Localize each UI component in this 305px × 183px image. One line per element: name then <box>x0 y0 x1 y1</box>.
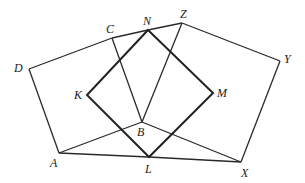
segment-dc <box>29 38 112 69</box>
segment-bx <box>142 122 241 162</box>
label-b: B <box>137 125 145 139</box>
label-z: Z <box>180 7 187 21</box>
segment-xl <box>149 157 241 162</box>
label-l: L <box>144 162 152 176</box>
label-a: A <box>49 156 58 170</box>
figure-segments <box>29 23 280 162</box>
segment-la <box>59 153 149 157</box>
label-n: N <box>142 14 152 28</box>
segment-zb <box>142 23 182 122</box>
segment-cb <box>112 38 142 122</box>
segment-zy <box>182 23 280 61</box>
label-c: C <box>106 22 115 36</box>
label-x: X <box>240 166 249 180</box>
square-klmn <box>87 30 213 157</box>
label-m: M <box>216 86 228 100</box>
segment-yx <box>241 61 280 162</box>
segment-ad <box>29 69 59 153</box>
label-k: K <box>73 88 83 102</box>
label-d: D <box>13 61 23 75</box>
geometry-diagram: A B C D K L M N X Y Z <box>0 0 305 183</box>
label-y: Y <box>284 52 292 66</box>
segment-nz <box>148 23 182 30</box>
